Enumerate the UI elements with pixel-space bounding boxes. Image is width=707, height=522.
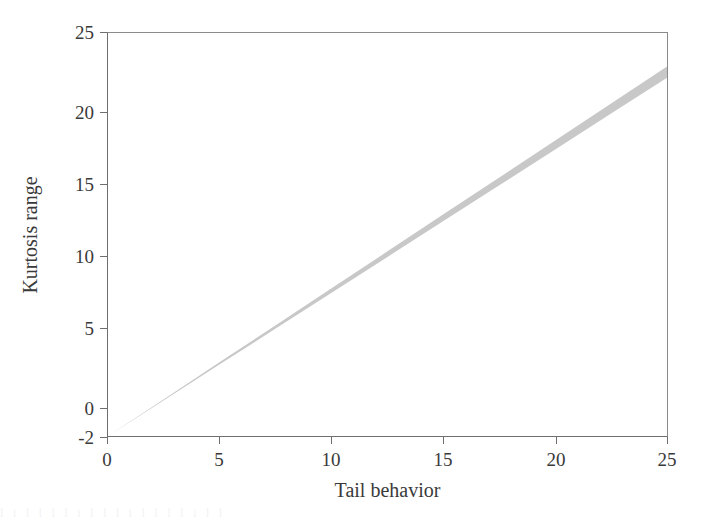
xtick-group-20: 20 — [526, 449, 586, 471]
y-axis-title: Kurtosis range — [18, 176, 42, 293]
xtick-label-15: 15 — [434, 449, 453, 470]
xtick-group-0: 0 — [77, 449, 137, 471]
ytick-label-25: 25 — [50, 23, 94, 42]
ytick-label-15: 15 — [50, 175, 94, 194]
xtick-group-25: 25 — [637, 449, 697, 471]
ytick-group-15: 15 — [0, 175, 94, 194]
xtick-group-15: 15 — [413, 449, 473, 471]
ytick-mark-10 — [100, 256, 107, 257]
data-band-svg — [108, 33, 667, 436]
xtick-label-10: 10 — [322, 449, 341, 470]
ytick-group-25: 25 — [0, 23, 94, 42]
chart-figure: 25 20 15 10 5 0 -2 0 5 10 15 20 — [0, 0, 707, 522]
ytick-group-10: 10 — [0, 247, 94, 266]
xtick-mark-10 — [331, 437, 332, 444]
xtick-label-0: 0 — [102, 449, 112, 470]
xtick-group-5: 5 — [189, 449, 249, 471]
ytick-label-minus2: -2 — [50, 428, 94, 447]
y-axis-title-wrap: Kurtosis range — [16, 32, 44, 437]
plot-area — [107, 32, 668, 437]
scan-artifact-text: l i l l l l i l l l i l l l l i l l — [0, 505, 707, 519]
xtick-group-10: 10 — [301, 449, 361, 471]
xtick-label-20: 20 — [547, 449, 566, 470]
xtick-mark-20 — [556, 437, 557, 444]
ytick-mark-20 — [100, 112, 107, 113]
ytick-group-20: 20 — [0, 103, 94, 122]
ytick-mark-5 — [100, 328, 107, 329]
feasible-region-band — [108, 67, 667, 436]
ytick-group-0: 0 — [0, 399, 94, 418]
xtick-label-5: 5 — [214, 449, 224, 470]
ytick-label-20: 20 — [50, 103, 94, 122]
xtick-mark-5 — [219, 437, 220, 444]
xtick-mark-25 — [667, 437, 668, 444]
ytick-mark-minus2 — [100, 437, 107, 438]
xtick-mark-15 — [443, 437, 444, 444]
xtick-label-25: 25 — [658, 449, 677, 470]
ytick-group-5: 5 — [0, 319, 94, 338]
ytick-mark-0 — [100, 408, 107, 409]
ytick-label-10: 10 — [50, 247, 94, 266]
ytick-label-0: 0 — [50, 399, 94, 418]
ytick-mark-25 — [100, 32, 107, 33]
ytick-label-5: 5 — [50, 319, 94, 338]
xtick-mark-0 — [107, 437, 108, 444]
ytick-mark-15 — [100, 184, 107, 185]
ytick-group-minus2: -2 — [0, 428, 94, 447]
x-axis-title: Tail behavior — [107, 478, 668, 502]
